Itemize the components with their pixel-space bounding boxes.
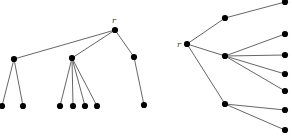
tree-node [282, 0, 288, 5]
tree-edge [225, 56, 285, 74]
tree-edge [72, 58, 73, 106]
tree-node [222, 101, 228, 107]
right-tree-nodes [184, 0, 288, 133]
tree-node [82, 103, 88, 109]
tree-node [94, 103, 100, 109]
tree-node [222, 15, 228, 21]
tree-edge [225, 55, 285, 56]
tree-edge [14, 30, 115, 59]
tree-edge [225, 104, 285, 110]
tree-node [282, 107, 288, 113]
tree-node [20, 103, 26, 109]
tree-edge [115, 30, 134, 57]
right-root-label: r [177, 40, 182, 49]
tree-edge [225, 56, 285, 91]
left-tree-nodes [0, 27, 147, 109]
right-tree-edges [187, 2, 285, 130]
tree-node [222, 53, 228, 59]
tree-edge [187, 44, 225, 104]
left-root-label: r [112, 16, 117, 25]
tree-node [131, 54, 137, 60]
tree-node [282, 71, 288, 77]
tree-node [69, 55, 75, 61]
tree-node [282, 31, 288, 37]
tree-diagram-canvas: r r [0, 0, 292, 137]
tree-edge [2, 59, 14, 106]
tree-edge [60, 58, 72, 106]
tree-node [57, 103, 63, 109]
tree-node [70, 103, 76, 109]
tree-edge [187, 18, 225, 44]
tree-edge [225, 104, 285, 130]
tree-edge [72, 30, 115, 58]
root-node [184, 41, 190, 47]
root-node [112, 27, 118, 33]
tree-edge [72, 58, 85, 106]
tree-node [282, 88, 288, 94]
tree-node [282, 52, 288, 58]
tree-edge [14, 59, 23, 106]
tree-node [11, 56, 17, 62]
left-tree-layered-drawing: r [0, 16, 147, 109]
tree-node [0, 103, 5, 109]
tree-node [141, 102, 147, 108]
tree-node [282, 127, 288, 133]
tree-edge [72, 58, 97, 106]
tree-edge [187, 44, 225, 56]
tree-edge [134, 57, 144, 105]
tree-edge [225, 34, 285, 56]
left-tree-edges [2, 30, 144, 106]
tree-edge [225, 2, 285, 18]
right-tree-horizontal-drawing: r [177, 0, 288, 133]
